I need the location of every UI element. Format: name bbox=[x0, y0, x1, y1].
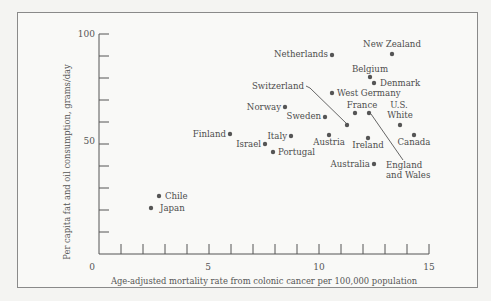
y-tick-50: 50 bbox=[84, 136, 96, 146]
label-sweden: Sweden bbox=[287, 111, 322, 121]
point-france bbox=[353, 111, 357, 115]
x-tick-0: 0 bbox=[89, 262, 95, 272]
label-austria: Austria bbox=[312, 137, 345, 147]
point-australia bbox=[372, 162, 376, 166]
point-england-and-wales bbox=[367, 111, 371, 115]
point-israel bbox=[263, 142, 267, 146]
point-italy bbox=[289, 134, 293, 138]
x-tick-15: 15 bbox=[423, 262, 435, 272]
point-denmark bbox=[372, 81, 376, 85]
point-netherlands bbox=[330, 53, 334, 57]
label-us-line2: White bbox=[387, 110, 413, 120]
label-england-line1: England bbox=[386, 160, 423, 170]
y-axis bbox=[99, 34, 109, 254]
label-switzerland: Switzerland bbox=[252, 81, 305, 91]
point-switzerland bbox=[345, 123, 349, 127]
point-finland bbox=[228, 132, 232, 136]
x-axis bbox=[99, 244, 429, 254]
label-canada: Canada bbox=[398, 137, 431, 147]
point-us-white bbox=[398, 123, 402, 127]
point-chile bbox=[157, 194, 161, 198]
point-west-germany bbox=[330, 91, 334, 95]
label-england-line2: and Wales bbox=[386, 170, 430, 180]
label-chile: Chile bbox=[165, 191, 188, 201]
point-japan bbox=[149, 206, 153, 210]
point-belgium bbox=[368, 75, 372, 79]
label-ireland: Ireland bbox=[352, 140, 384, 150]
label-italy: Italy bbox=[267, 131, 287, 141]
label-israel: Israel bbox=[236, 139, 261, 149]
x-axis-title: Age-adjusted mortality rate from colonic… bbox=[110, 276, 418, 286]
scatter-chart: 100 50 0 5 10 15 Age-adjusted mortality … bbox=[0, 0, 491, 301]
y-tick-100: 100 bbox=[78, 29, 95, 39]
label-france: France bbox=[347, 100, 378, 110]
label-portugal: Portugal bbox=[278, 147, 315, 157]
label-new-zealand: New Zealand bbox=[363, 39, 421, 49]
label-norway: Norway bbox=[247, 102, 281, 112]
label-japan: Japan bbox=[159, 203, 185, 213]
label-belgium: Belgium bbox=[352, 64, 388, 74]
label-denmark: Denmark bbox=[380, 78, 421, 88]
point-new-zealand bbox=[390, 52, 394, 56]
point-portugal bbox=[271, 150, 275, 154]
label-finland: Finland bbox=[193, 129, 227, 139]
label-australia: Australia bbox=[330, 159, 370, 169]
y-axis-title: Per capita fat and oil consumption, gram… bbox=[62, 64, 72, 260]
x-tick-10: 10 bbox=[313, 262, 325, 272]
label-west-germany: West Germany bbox=[337, 88, 401, 98]
label-netherlands: Netherlands bbox=[274, 49, 328, 59]
point-labels: Netherlands New Zealand Belgium Denmark … bbox=[159, 39, 430, 213]
point-sweden bbox=[323, 115, 327, 119]
label-us-line1: U.S. bbox=[390, 100, 408, 110]
point-norway bbox=[283, 105, 287, 109]
x-tick-5: 5 bbox=[205, 262, 211, 272]
